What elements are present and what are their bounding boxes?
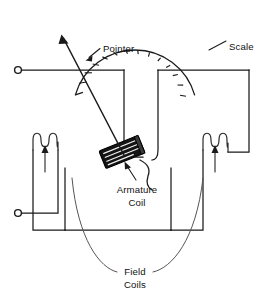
scale-arc-group: [75, 50, 194, 97]
terminal-bottom: [15, 210, 22, 217]
terminal-top: [15, 67, 22, 74]
lower-left-lead: [21, 150, 58, 213]
field-coil-right-leader: [153, 178, 203, 272]
field-coil-left-leader: [72, 178, 117, 272]
pointer-needle-arrowhead: [59, 35, 69, 45]
right-coil-lower-lead: [171, 150, 203, 230]
scale-arc: [75, 50, 194, 95]
pointer-leader-arrowhead: [86, 56, 93, 62]
diagram-canvas: Pointer Scale Armature Coil Field Coils: [0, 0, 270, 298]
electrodynamometer-diagram: Pointer Scale Armature Coil Field Coils: [0, 0, 270, 298]
label-armature-coil-line2: Coil: [128, 197, 145, 208]
label-armature-coil-line1: Armature: [117, 184, 158, 195]
scale-tick: [158, 58, 161, 61]
scale-leader-line: [209, 41, 226, 50]
scale-tick: [138, 50, 139, 54]
label-field-coils-line2: Coils: [124, 279, 146, 290]
armature-leader: [125, 162, 137, 181]
scale-tick: [148, 53, 149, 57]
label-pointer: Pointer: [103, 43, 135, 54]
pointer-leader-line: [89, 49, 100, 58]
label-field-coils-line1: Field: [124, 266, 146, 277]
pointer-leader: [86, 49, 101, 62]
left-coil-outer-lead: [33, 150, 65, 230]
label-scale: Scale: [229, 41, 254, 52]
scale-tick: [173, 75, 178, 76]
armature-leader-arrowhead: [125, 162, 132, 170]
scale-tick: [180, 95, 186, 96]
right-pole-piece: [152, 70, 158, 160]
pointer-needle: [64, 39, 125, 156]
right-frame-outer: [228, 70, 249, 152]
scale-tick: [166, 65, 170, 67]
